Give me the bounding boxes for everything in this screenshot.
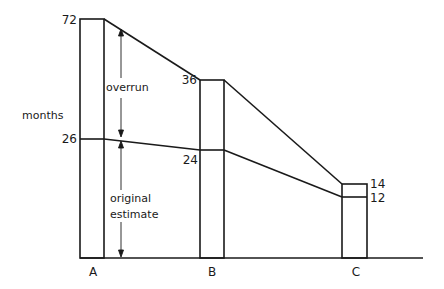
total-connector-bc (224, 80, 342, 184)
arrowhead-down-icon (119, 130, 124, 137)
category-label-b: B (208, 265, 216, 279)
bar-b (200, 80, 224, 258)
arrowhead-down-icon (119, 250, 124, 257)
overrun-label: overrun (106, 81, 149, 94)
arrowhead-up-icon (119, 141, 124, 148)
value-label-a-original: 26 (62, 132, 77, 146)
value-label-b-total: 36 (182, 73, 197, 87)
category-label-a: A (89, 265, 98, 279)
y-axis-label: months (22, 109, 64, 122)
total-connector-ab (104, 19, 200, 80)
category-label-c: C (352, 265, 360, 279)
value-label-a-total: 72 (62, 13, 77, 27)
value-label-c-total: 14 (370, 177, 385, 191)
original-connector-bc (224, 150, 342, 197)
diagram-canvas: 72 26 months overrun original estimate 3… (0, 0, 444, 289)
original-estimate-label-line1: original (110, 192, 151, 205)
original-estimate-label-line2: estimate (110, 208, 159, 221)
value-label-b-original: 24 (183, 153, 198, 167)
value-label-c-original: 12 (370, 191, 385, 205)
bar-c (342, 184, 367, 258)
